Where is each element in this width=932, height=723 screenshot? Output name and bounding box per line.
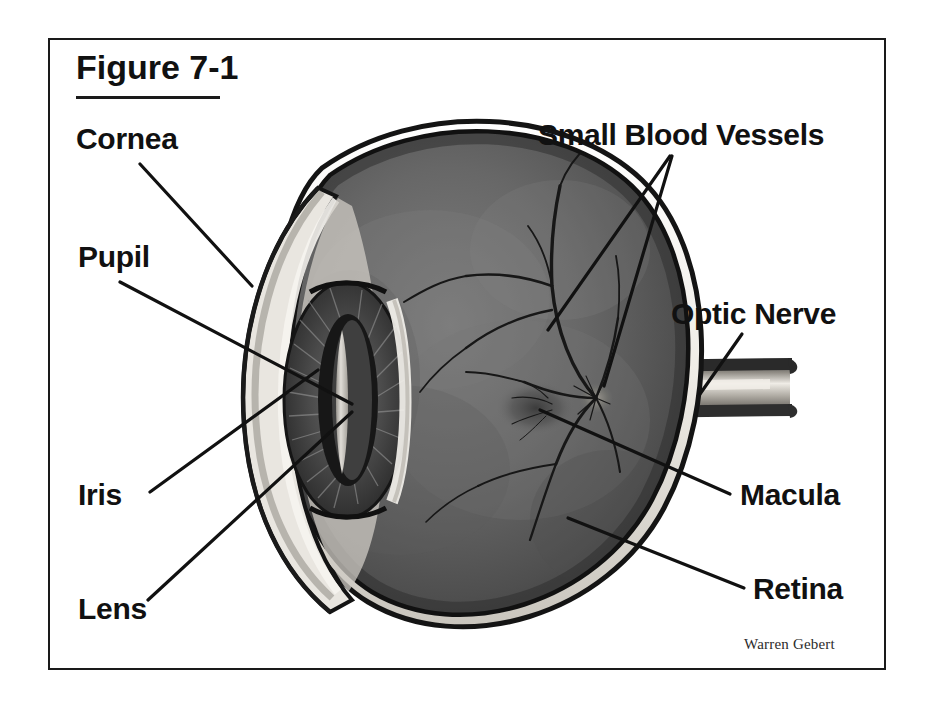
- label-optic-nerve: Optic Nerve: [671, 297, 836, 331]
- figure-title: Figure 7-1: [76, 48, 238, 87]
- macula-spot: [496, 381, 576, 435]
- label-pupil: Pupil: [78, 240, 150, 274]
- title-underline-rule: [76, 96, 220, 99]
- label-retina: Retina: [753, 572, 843, 606]
- leader-cornea: [140, 164, 252, 286]
- label-macula: Macula: [740, 478, 840, 512]
- label-small-blood-vessels: Small Blood Vessels: [538, 118, 824, 152]
- label-lens: Lens: [78, 592, 147, 626]
- label-iris: Iris: [78, 478, 122, 512]
- artist-credit: Warren Gebert: [744, 636, 835, 653]
- figure-root: Figure 7-1 Cornea Pupil Iris Lens Small …: [0, 0, 932, 723]
- label-cornea: Cornea: [76, 122, 178, 156]
